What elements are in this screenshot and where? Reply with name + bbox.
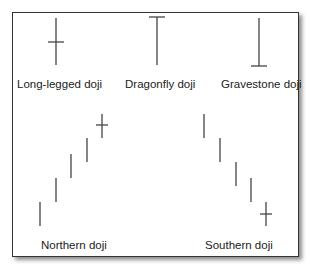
label-gravestone-doji: Gravestone doji [221, 78, 302, 90]
label-southern-doji: Southern doji [205, 239, 273, 251]
label-dragonfly-doji: Dragonfly doji [125, 78, 195, 90]
label-long-legged-doji: Long-legged doji [17, 78, 102, 90]
label-northern-doji: Northern doji [41, 239, 107, 251]
doji-diagram [0, 0, 310, 272]
